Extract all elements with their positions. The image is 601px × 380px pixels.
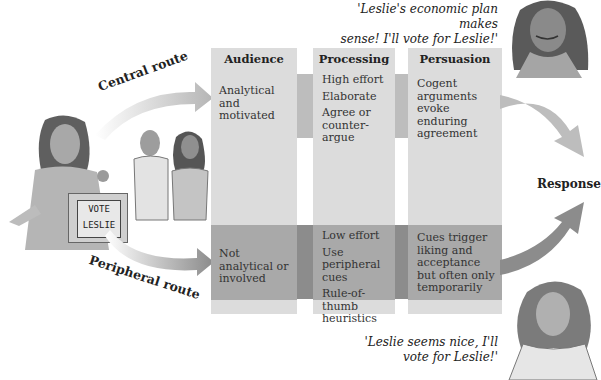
audience-illustration xyxy=(128,125,213,225)
central-response-arrow xyxy=(500,95,590,165)
peripheral-voter-illustration xyxy=(505,278,601,380)
cell-text: Analytical and motivated xyxy=(219,85,297,123)
podium-sign-line: VOTE xyxy=(78,201,120,217)
central-route-quote: 'Leslie's economic plan makes sense! I'l… xyxy=(330,2,498,47)
audience-central-text: Analytical and motivated xyxy=(219,85,297,127)
quote-line: sense! I'll vote for Leslie!' xyxy=(330,32,498,47)
column-header: Persuasion xyxy=(408,52,502,66)
cell-text: Elaborate xyxy=(322,91,394,104)
cell-text: Cogent arguments evoke enduring agreemen… xyxy=(417,78,499,141)
convinced-voter-illustration xyxy=(500,0,600,78)
processing-peripheral-text: Low effort Use peripheral cues Rule-of-t… xyxy=(322,230,394,330)
column-processing: Processing High effort Elaborate Agree o… xyxy=(313,48,395,314)
column-header: Processing xyxy=(313,52,395,66)
peripheral-connector xyxy=(395,225,408,299)
peripheral-connector xyxy=(297,225,313,299)
cell-text: Rule-of-thumb heuristics xyxy=(322,288,394,326)
persuasion-peripheral-text: Cues trigger liking and acceptance but o… xyxy=(417,232,499,299)
response-label: Response xyxy=(537,177,601,191)
quote-line: vote for Leslie!' xyxy=(340,350,498,365)
column-persuasion: Persuasion Cogent arguments evoke enduri… xyxy=(408,48,502,314)
processing-central-text: High effort Elaborate Agree or counter-a… xyxy=(322,74,394,149)
central-connector xyxy=(395,74,408,138)
cell-text: Use peripheral cues xyxy=(322,247,394,285)
quote-line: 'Leslie seems nice, I'll xyxy=(340,335,498,350)
quote-line: 'Leslie's economic plan makes xyxy=(330,2,498,32)
cell-text: Low effort xyxy=(322,230,394,243)
cell-text: Not analytical or involved xyxy=(219,248,297,286)
cell-text: High effort xyxy=(322,74,394,87)
audience-peripheral-text: Not analytical or involved xyxy=(219,248,297,290)
peripheral-response-arrow xyxy=(500,200,590,275)
cell-text: Cues trigger liking and acceptance but o… xyxy=(417,232,499,295)
column-audience: Audience Analytical and motivated Not an… xyxy=(211,48,297,314)
persuasion-central-text: Cogent arguments evoke enduring agreemen… xyxy=(417,78,499,145)
peripheral-route-quote: 'Leslie seems nice, I'll vote for Leslie… xyxy=(340,335,498,365)
central-connector xyxy=(297,74,313,138)
cell-text: Agree or counter-argue xyxy=(322,107,394,145)
